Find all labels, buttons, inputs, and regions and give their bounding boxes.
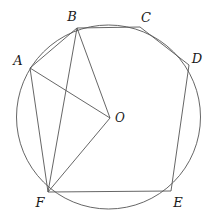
radius-O-B <box>77 28 110 118</box>
vertex-label-b: B <box>67 10 77 23</box>
center-label-o: O <box>115 112 125 124</box>
radius-O-F <box>48 118 110 192</box>
geometry-canvas <box>0 0 212 223</box>
chord-B-F <box>48 28 77 192</box>
chord-A-B <box>30 28 77 68</box>
vertex-label-c: C <box>141 11 151 24</box>
vertex-label-d: D <box>192 52 202 65</box>
chord-E-F <box>48 191 171 192</box>
vertex-label-e: E <box>173 196 183 209</box>
vertex-label-a: A <box>13 54 22 67</box>
radius-O-A <box>30 68 110 118</box>
chord-C-D <box>140 27 189 65</box>
vertex-label-f: F <box>35 196 44 209</box>
chord-F-A <box>30 68 48 192</box>
chord-D-E <box>171 65 189 191</box>
geometry-figure: A B C D E F O <box>0 0 212 223</box>
